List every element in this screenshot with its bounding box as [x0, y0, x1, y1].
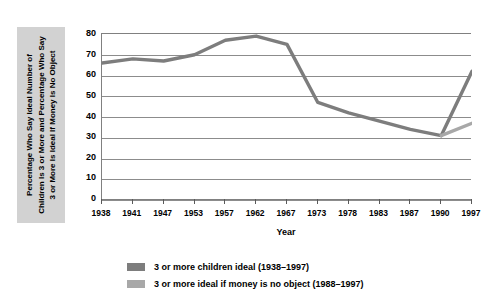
legend-label-money-no-object: 3 or more ideal if money is no object (1… — [154, 279, 364, 289]
y-tick-60: 60 — [70, 70, 96, 79]
x-tick-mark-1997 — [471, 199, 472, 204]
legend-swatch-children-ideal — [127, 263, 145, 271]
y-axis-title-line-1: Percentage Who Say Ideal Number of — [24, 27, 36, 223]
legend-item-money-no-object: 3 or more ideal if money is no object (1… — [127, 275, 467, 292]
x-tick-mark-1983 — [379, 199, 380, 204]
series-lines — [102, 34, 472, 200]
y-axis-title-box: Percentage Who Say Ideal Number of Child… — [17, 27, 65, 223]
plot-area — [101, 33, 471, 199]
legend-label-children-ideal: 3 or more children ideal (1938–1997) — [154, 262, 309, 272]
x-tick-mark-1938 — [101, 199, 102, 204]
legend-item-children-ideal: 3 or more children ideal (1938–1997) — [127, 258, 467, 275]
line-chart: Percentage Who Say Ideal Number of Child… — [0, 0, 492, 299]
x-tick-mark-1957 — [224, 199, 225, 204]
x-axis-title: Year — [101, 227, 471, 237]
y-tick-70: 70 — [70, 50, 96, 59]
y-tick-50: 50 — [70, 91, 96, 100]
x-tick-mark-1978 — [348, 199, 349, 204]
y-axis-tick-labels: 80 70 60 50 40 30 20 10 0 — [66, 0, 96, 299]
y-tick-30: 30 — [70, 132, 96, 141]
legend-swatch-money-no-object — [127, 280, 145, 288]
x-tick-mark-1987 — [409, 199, 410, 204]
x-tick-mark-1947 — [163, 199, 164, 204]
x-tick-mark-1990 — [440, 199, 441, 204]
x-tick-mark-1967 — [286, 199, 287, 204]
y-axis-title: Percentage Who Say Ideal Number of Child… — [24, 27, 59, 223]
y-tick-10: 10 — [70, 173, 96, 182]
y-axis-title-line-2: Children Is 3 or More and Percentage Who… — [35, 27, 47, 223]
x-tick-mark-1973 — [317, 199, 318, 204]
x-tick-mark-1941 — [132, 199, 133, 204]
y-axis-title-line-3: 3 or More Is Ideal If Money Is No Object — [47, 27, 59, 223]
legend: 3 or more children ideal (1938–1997) 3 o… — [127, 258, 467, 292]
x-tick-label-1997: 1997 — [451, 208, 491, 218]
y-tick-0: 0 — [70, 194, 96, 203]
y-tick-20: 20 — [70, 153, 96, 162]
x-tick-mark-1962 — [255, 199, 256, 204]
y-tick-40: 40 — [70, 112, 96, 121]
x-tick-mark-1953 — [194, 199, 195, 204]
series-line-children-ideal — [102, 36, 472, 136]
y-tick-80: 80 — [70, 29, 96, 38]
